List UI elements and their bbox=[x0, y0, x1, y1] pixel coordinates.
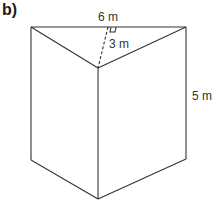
height-label: 5 m bbox=[192, 89, 212, 103]
bottom-left-edge bbox=[31, 160, 98, 199]
altitude-dashed-line bbox=[98, 27, 108, 68]
bottom-right-edge bbox=[98, 159, 186, 199]
top-left-edge bbox=[31, 27, 98, 68]
altitude-label: 3 m bbox=[109, 37, 129, 51]
prism-diagram: 6 m 3 m 5 m bbox=[0, 0, 221, 203]
top-edge-label: 6 m bbox=[98, 10, 118, 24]
right-angle-marker bbox=[110, 27, 116, 32]
